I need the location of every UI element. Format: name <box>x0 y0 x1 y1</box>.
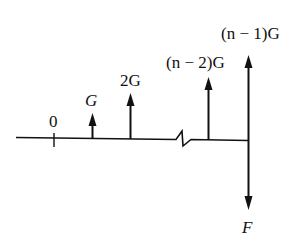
origin-label: 0 <box>49 113 58 130</box>
label-F: F <box>242 219 252 236</box>
arrow-G-icon <box>89 113 97 139</box>
label-n1G: (n − 1)G <box>221 25 280 42</box>
baseline <box>16 131 248 146</box>
force-diagram: 0 G 2G (n − 2)G (n − 1)G F <box>0 0 302 249</box>
label-n2G: (n − 2)G <box>166 54 225 71</box>
arrow-n1G-icon <box>245 55 253 141</box>
arrow-2G-icon <box>127 93 135 139</box>
label-2G: 2G <box>120 72 141 89</box>
arrow-F-icon <box>245 141 253 210</box>
label-G: G <box>85 92 97 109</box>
arrow-n2G-icon <box>205 77 213 140</box>
